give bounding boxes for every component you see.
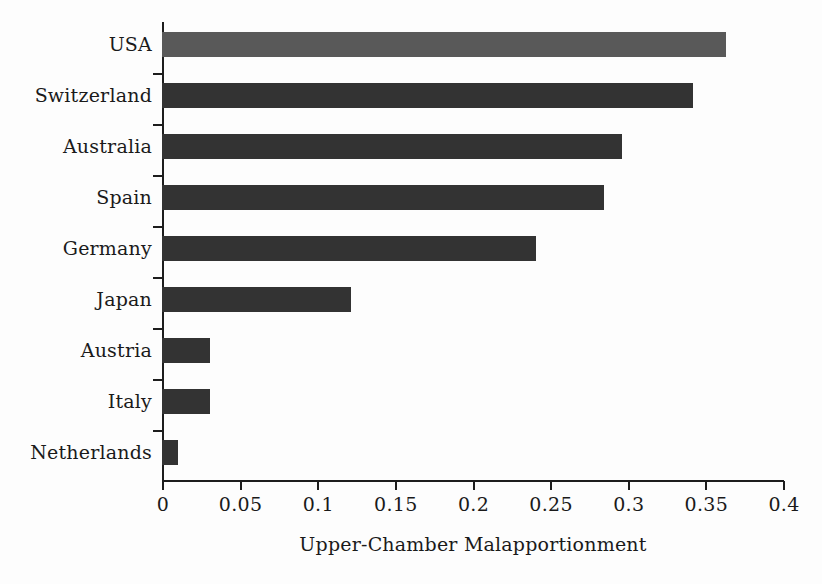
y-axis-label-japan: Japan — [2, 287, 152, 312]
bar-netherlands — [162, 440, 178, 465]
bar-usa — [162, 32, 726, 57]
x-axis-tick-group — [162, 481, 784, 491]
y-axis-label-netherlands: Netherlands — [2, 440, 152, 465]
y-axis-label-australia: Australia — [2, 134, 152, 159]
x-axis-ticklabel: 0.35 — [685, 493, 729, 515]
bar-australia — [162, 134, 622, 159]
y-axis-tick — [153, 430, 162, 432]
y-axis-tick — [153, 73, 162, 75]
y-axis-tick — [153, 277, 162, 279]
y-axis-tick — [153, 328, 162, 330]
x-axis-tick — [317, 481, 319, 490]
x-axis-ticklabel: 0.2 — [458, 493, 489, 515]
bar-germany — [162, 236, 536, 261]
x-axis-ticklabel: 0.15 — [374, 493, 418, 515]
x-axis-ticklabel: 0.05 — [219, 493, 263, 515]
x-axis-tick — [550, 481, 552, 490]
x-axis-ticklabel: 0 — [157, 493, 169, 515]
x-axis-ticklabel: 0.25 — [529, 493, 573, 515]
y-axis-label-switzerland: Switzerland — [2, 83, 152, 108]
bar-chart-figure: USASwitzerlandAustraliaSpainGermanyJapan… — [0, 0, 822, 584]
x-axis-tick — [240, 481, 242, 490]
y-axis-tick — [153, 175, 162, 177]
y-axis-label-spain: Spain — [2, 185, 152, 210]
x-axis-tick — [705, 481, 707, 490]
x-axis-tick — [162, 481, 164, 490]
bar-austria — [162, 338, 210, 363]
x-axis-ticklabel-group: 00.050.10.150.20.250.30.350.4 — [162, 493, 784, 519]
x-axis-tick — [473, 481, 475, 490]
x-axis-tick — [783, 481, 785, 490]
y-axis-tick — [153, 124, 162, 126]
x-axis-ticklabel: 0.1 — [303, 493, 334, 515]
y-axis-tick — [153, 226, 162, 228]
bar-japan — [162, 287, 351, 312]
y-axis-label-italy: Italy — [2, 389, 152, 414]
y-axis-label-group: USASwitzerlandAustraliaSpainGermanyJapan… — [0, 22, 152, 481]
y-axis-tick — [153, 379, 162, 381]
x-axis-ticklabel: 0.3 — [613, 493, 644, 515]
x-axis-ticklabel: 0.4 — [768, 493, 799, 515]
bar-italy — [162, 389, 210, 414]
y-axis-label-usa: USA — [2, 32, 152, 57]
y-axis-label-austria: Austria — [2, 338, 152, 363]
plot-area — [162, 22, 783, 481]
x-axis-tick — [395, 481, 397, 490]
x-axis-title: Upper-Chamber Malapportionment — [162, 533, 784, 555]
bar-switzerland — [162, 83, 693, 108]
bar-spain — [162, 185, 604, 210]
y-axis-label-germany: Germany — [2, 236, 152, 261]
x-axis-tick — [628, 481, 630, 490]
